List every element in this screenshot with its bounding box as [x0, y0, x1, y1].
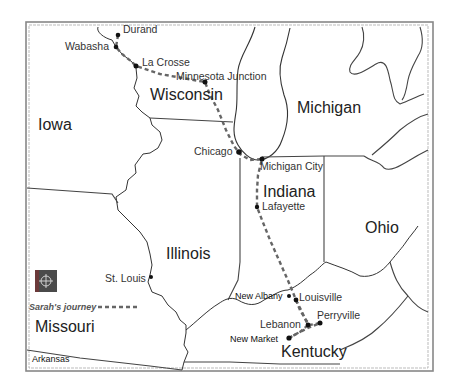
city-label-wabasha: Wabasha [65, 40, 109, 52]
city-dot-new-market [286, 335, 291, 340]
illinois-indiana-border [228, 158, 240, 300]
city-label-new-market: New Market [230, 334, 279, 344]
iowa-missouri-border [27, 188, 118, 203]
city-dot-new-albany [287, 294, 291, 298]
state-label-ohio: Ohio [365, 219, 399, 236]
city-dot-perryville [318, 321, 323, 326]
kentucky-southeast-border [340, 296, 408, 350]
state-label-iowa: Iowa [38, 116, 72, 133]
mississippi-river [98, 27, 188, 370]
state-label-michigan: Michigan [297, 99, 361, 116]
kentucky-tennessee-border [184, 362, 340, 364]
city-dot-wabasha [114, 45, 119, 50]
city-label-durand: Durand [123, 23, 158, 35]
state-label-illinois: Illinois [166, 245, 210, 262]
kentucky-east-border [390, 262, 428, 312]
state-label-missouri: Missouri [35, 318, 95, 335]
legend-route-label: Sarah's journey [29, 302, 97, 312]
city-label-la-crosse: La Crosse [142, 56, 190, 68]
city-label-louisville: Louisville [299, 291, 342, 303]
lake-erie-coast [372, 114, 428, 155]
lake-michigan [234, 27, 290, 160]
city-dot-louisville [294, 298, 299, 303]
city-label-lebanon: Lebanon [260, 318, 301, 330]
michigan-lake-huron-coast [402, 27, 422, 100]
city-label-perryville: Perryville [317, 309, 360, 321]
state-label-wisconsin: Wisconsin [150, 86, 223, 103]
state-label-indiana: Indiana [263, 183, 316, 200]
compass-rose-icon [35, 270, 57, 292]
city-dot-st-louis [149, 275, 153, 279]
city-dot-lafayette [255, 205, 259, 209]
legend: Sarah's journey [29, 302, 138, 312]
city-dot-durand [116, 33, 121, 38]
city-label-minnesota-junction: Minnesota Junction [176, 70, 267, 82]
city-dot-la-crosse [134, 64, 139, 69]
state-label-arkansas: Arkansas [32, 354, 70, 364]
city-label-new-albany: New Albany [235, 291, 283, 301]
state-label-kentucky: Kentucky [281, 343, 347, 360]
city-label-michigan-city: Michigan City [260, 160, 324, 172]
city-label-chicago: Chicago [194, 145, 233, 157]
city-label-st-louis: St. Louis [105, 272, 146, 284]
michigan-indiana-ohio-border [262, 156, 364, 157]
city-dot-lebanon [306, 323, 311, 328]
journey-map: Iowa Wisconsin Michigan Illinois Indiana… [0, 0, 453, 388]
lake-erie-south [364, 150, 428, 169]
city-dot-chicago [236, 149, 242, 155]
city-label-lafayette: Lafayette [262, 200, 305, 212]
